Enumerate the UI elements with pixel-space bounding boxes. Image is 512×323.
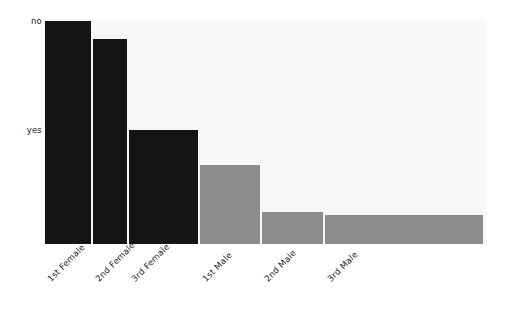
- x-tick-label-1st-female: 1st Female: [46, 243, 86, 283]
- x-axis: 1st Female2nd Female3rd Female1st Male2n…: [0, 0, 512, 323]
- x-tick-label-3rd-male: 3rd Male: [326, 250, 359, 283]
- mosaic-plot: no yes 1st Female2nd Female3rd Female1st…: [0, 0, 512, 323]
- x-tick-label-1st-male: 1st Male: [201, 251, 234, 284]
- x-tick-label-3rd-female: 3rd Female: [130, 242, 171, 283]
- x-tick-label-2nd-male: 2nd Male: [263, 249, 298, 284]
